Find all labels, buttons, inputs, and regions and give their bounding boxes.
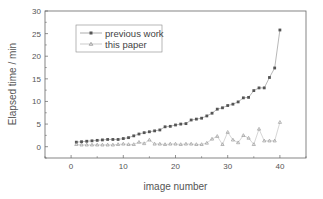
y-tick-label: 5 <box>37 120 42 129</box>
square-marker <box>143 131 146 134</box>
x-tick-label: 30 <box>223 162 232 171</box>
square-marker <box>221 106 224 109</box>
square-marker <box>85 140 88 143</box>
square-marker <box>258 86 261 89</box>
square-marker <box>132 134 135 137</box>
series-line <box>76 122 280 145</box>
square-marker <box>127 136 130 139</box>
square-marker <box>232 103 235 106</box>
square-marker <box>101 139 104 142</box>
square-marker <box>158 129 161 132</box>
x-tick-label: 0 <box>69 162 74 171</box>
square-marker <box>164 125 167 128</box>
y-axis-title: Elapsed time / min <box>7 43 18 125</box>
y-tick-label: 25 <box>32 30 41 39</box>
square-marker <box>138 133 141 136</box>
x-tick-label: 10 <box>119 162 128 171</box>
square-marker <box>185 122 188 125</box>
square-marker <box>91 139 94 142</box>
square-marker <box>226 104 229 107</box>
legend-label-this-paper: this paper <box>105 39 147 50</box>
y-tick-label: 20 <box>32 52 41 61</box>
square-marker <box>205 115 208 118</box>
square-marker <box>247 96 250 99</box>
square-marker <box>252 89 255 92</box>
square-marker <box>211 112 214 115</box>
y-tick-label: 30 <box>32 7 41 16</box>
line-chart: 051015202530 010203040 image number Elap… <box>0 0 323 199</box>
x-tick-label: 20 <box>171 162 180 171</box>
square-marker <box>190 119 193 122</box>
square-marker <box>106 138 109 141</box>
square-marker <box>263 86 266 89</box>
square-marker <box>179 123 182 126</box>
x-axis: 010203040 <box>45 155 306 171</box>
legend: previous work this paper <box>76 25 164 52</box>
legend-label-previous-work: previous work <box>105 28 164 39</box>
square-marker <box>153 129 156 132</box>
y-tick-label: 10 <box>32 97 41 106</box>
square-marker <box>200 117 203 120</box>
y-axis: 051015202530 <box>32 7 48 158</box>
square-marker <box>111 138 114 141</box>
square-marker <box>216 108 219 111</box>
square-marker <box>242 96 245 99</box>
square-marker <box>273 67 276 70</box>
square-marker <box>148 130 151 133</box>
square-marker <box>237 101 240 104</box>
square-marker <box>174 124 177 127</box>
square-marker <box>96 139 99 142</box>
y-tick-label: 15 <box>32 75 41 84</box>
x-tick-label: 40 <box>275 162 284 171</box>
x-axis-title: image number <box>144 181 209 192</box>
square-marker <box>279 29 282 32</box>
legend-square-marker-icon <box>90 32 93 35</box>
square-marker <box>195 118 198 121</box>
square-marker <box>268 76 271 79</box>
square-marker <box>117 138 120 141</box>
square-marker <box>122 137 125 140</box>
square-marker <box>169 125 172 128</box>
y-tick-label: 0 <box>37 143 42 152</box>
